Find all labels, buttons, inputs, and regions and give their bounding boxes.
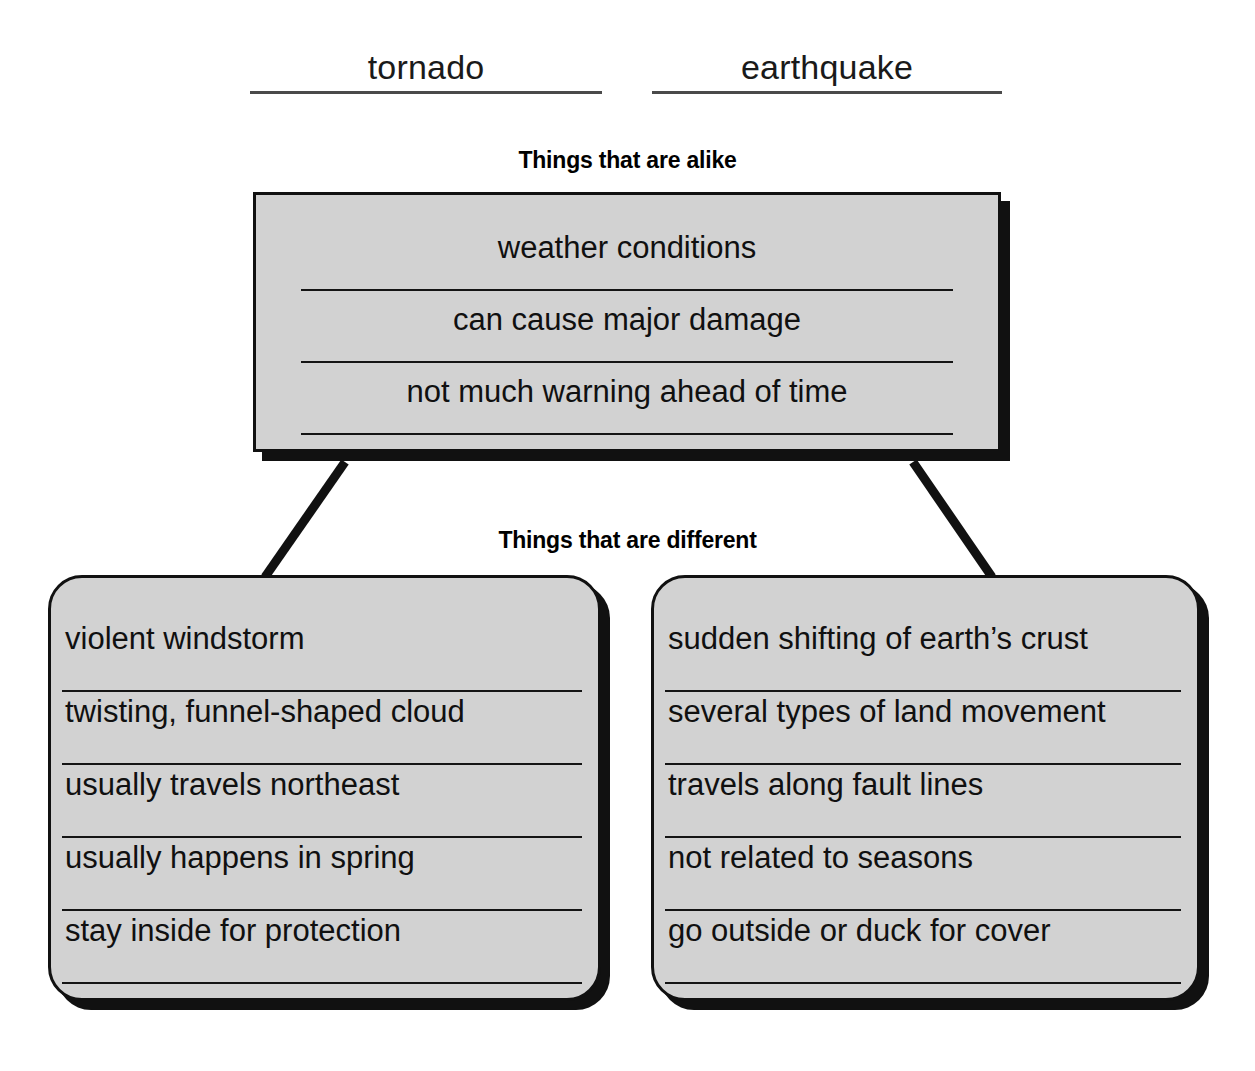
tornado-entry[interactable]: stay inside for protection [62,912,582,984]
alike-box[interactable]: weather conditions can cause major damag… [253,192,1001,452]
caption-things-different: Things that are different [0,527,1255,554]
tornado-entry-rule [62,690,582,692]
earthquake-entry-rule [665,836,1181,838]
tornado-entry-text: stay inside for protection [62,912,582,950]
earthquake-entry-text: travels along fault lines [665,766,1181,804]
earthquake-entry-text: go outside or duck for cover [665,912,1181,950]
earthquake-entry[interactable]: travels along fault lines [665,766,1181,838]
tornado-entry-list: violent windstorm twisting, funnel-shape… [51,578,598,998]
alike-entry-rule [301,289,953,291]
earthquake-differences-box[interactable]: sudden shifting of earth’s crust several… [651,575,1200,1001]
tornado-entry-rule [62,836,582,838]
earthquake-entry-rule [665,982,1181,984]
alike-entry-text: weather conditions [301,229,953,267]
earthquake-entry-text: not related to seasons [665,839,1181,877]
caption-things-alike: Things that are alike [0,147,1255,174]
tornado-entry-rule [62,763,582,765]
tornado-differences-box[interactable]: violent windstorm twisting, funnel-shape… [48,575,601,1001]
alike-entry[interactable]: weather conditions [301,229,953,291]
tornado-entry-rule [62,982,582,984]
tornado-entry-text: usually travels northeast [62,766,582,804]
earthquake-entry[interactable]: go outside or duck for cover [665,912,1181,984]
alike-entry-text: can cause major damage [301,301,953,339]
tornado-entry[interactable]: twisting, funnel-shaped cloud [62,693,582,765]
subject-heading-earthquake[interactable]: earthquake [652,47,1002,94]
tornado-entry-text: twisting, funnel-shaped cloud [62,693,582,731]
alike-entry[interactable]: not much warning ahead of time [301,373,953,435]
earthquake-entry-rule [665,909,1181,911]
subject-label-tornado: tornado [250,47,602,87]
alike-entry-rule [301,433,953,435]
tornado-entry[interactable]: usually travels northeast [62,766,582,838]
earthquake-entry-rule [665,763,1181,765]
graphic-organizer-page: tornado earthquake Things that are alike… [0,0,1255,1071]
tornado-entry[interactable]: usually happens in spring [62,839,582,911]
subject-heading-tornado[interactable]: tornado [250,47,602,94]
earthquake-entry-rule [665,690,1181,692]
subject-rule-earthquake [652,91,1002,94]
earthquake-entry[interactable]: several types of land movement [665,693,1181,765]
alike-entry-list: weather conditions can cause major damag… [256,195,998,449]
connector-left [265,462,345,577]
tornado-entry-text: usually happens in spring [62,839,582,877]
tornado-entry-rule [62,909,582,911]
earthquake-entry-text: several types of land movement [665,693,1181,731]
tornado-entry-text: violent windstorm [62,620,582,658]
earthquake-entry-list: sudden shifting of earth’s crust several… [654,578,1197,998]
connector-right [913,462,992,577]
subject-label-earthquake: earthquake [652,47,1002,87]
earthquake-entry-text: sudden shifting of earth’s crust [665,620,1181,658]
earthquake-entry[interactable]: not related to seasons [665,839,1181,911]
tornado-entry[interactable]: violent windstorm [62,620,582,692]
earthquake-entry[interactable]: sudden shifting of earth’s crust [665,620,1181,692]
alike-entry[interactable]: can cause major damage [301,301,953,363]
alike-entry-rule [301,361,953,363]
subject-rule-tornado [250,91,602,94]
alike-entry-text: not much warning ahead of time [301,373,953,411]
